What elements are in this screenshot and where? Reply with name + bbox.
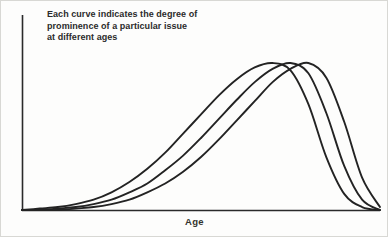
curve-issue-2: [22, 63, 380, 210]
x-axis-label: Age: [185, 216, 204, 227]
chart-plot-area: [0, 0, 388, 237]
figure-container: Each curve indicates the degree of promi…: [0, 0, 388, 237]
curve-group: [22, 63, 380, 210]
curve-issue-1: [22, 63, 380, 210]
curve-issue-3: [22, 63, 380, 210]
